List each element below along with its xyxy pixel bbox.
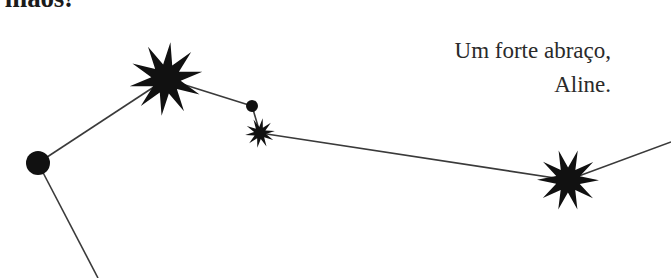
signer-name: Aline. (455, 68, 611, 102)
edge-smallstar-rightstar (260, 133, 568, 180)
node-small-star (245, 118, 275, 148)
letter-page: s mãos! Um forte abraço, Aline. (0, 0, 671, 278)
headline-clip: s mãos! (0, 0, 300, 16)
node-big-star (130, 42, 203, 115)
headline-partial-text: s mãos! (0, 0, 73, 13)
edge-leftdot-bigstar (38, 79, 166, 163)
node-right-star (537, 150, 599, 209)
edge-middot-smallstar (252, 106, 260, 133)
edge-leftdot-bottom (38, 163, 98, 278)
closing-salutation: Um forte abraço, (455, 34, 611, 68)
node-mid-dot (246, 100, 258, 112)
constellation-edges (38, 79, 671, 278)
node-left-dot (26, 151, 50, 175)
signature-block: Um forte abraço, Aline. (455, 34, 611, 102)
edge-bigstar-middot (166, 79, 252, 106)
edge-rightstar-offpage (568, 142, 671, 180)
